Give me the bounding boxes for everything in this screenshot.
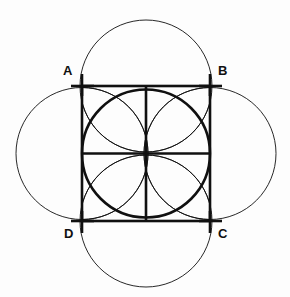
vertex-label-d: D	[64, 227, 73, 240]
vertex-label-c: C	[218, 227, 227, 240]
geometry-figure-canvas: A B C D	[0, 0, 290, 297]
geometry-diagram	[0, 0, 290, 297]
vertex-label-b: B	[218, 64, 227, 77]
vertex-label-a: A	[63, 64, 72, 77]
